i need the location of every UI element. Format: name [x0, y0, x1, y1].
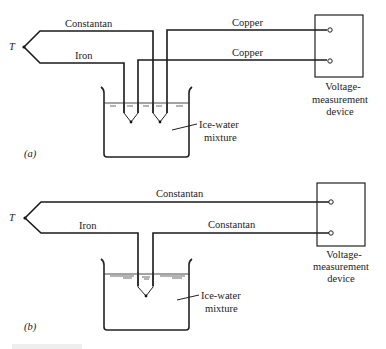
terminal-top-a	[328, 28, 332, 32]
junction-label-a: T	[9, 41, 16, 52]
voltage-device-box-a	[315, 15, 363, 77]
constantan-wire-top-b	[25, 202, 331, 218]
reference-junction-dot-right-a	[159, 121, 162, 124]
bath-leader-line-a	[172, 124, 197, 130]
panel-label-b: (b)	[24, 321, 37, 333]
wire-label-iron-b: Iron	[79, 220, 97, 231]
reference-tube-right-a	[153, 102, 167, 122]
bath-label-line2-b: mixture	[205, 303, 238, 314]
wire-label-copper-top-a: Copper	[232, 17, 263, 28]
wire-label-constantan-bottom-b: Constantan	[208, 219, 256, 230]
device-label-line3-a: device	[326, 106, 354, 117]
device-label-line2-a: measurement	[312, 94, 368, 105]
constantan-wire-a	[24, 31, 153, 113]
caption-remnant	[12, 344, 82, 349]
device-label-line2-b: measurement	[313, 261, 369, 272]
junction-label-b: T	[9, 212, 16, 223]
voltage-device-box-b	[317, 183, 365, 246]
reference-junction-dot-left-a	[130, 121, 133, 124]
reference-tube-b	[138, 272, 153, 296]
thermocouple-diagram: T Ice-water mixture Constantan Iron C	[0, 0, 386, 349]
reference-junction-dot-b	[145, 295, 148, 298]
device-label-line1-a: Voltage-	[325, 81, 361, 92]
wire-label-copper-bottom-a: Copper	[232, 47, 263, 58]
panel-label-a: (a)	[24, 148, 37, 160]
terminal-bottom-b	[329, 231, 333, 235]
terminal-top-b	[329, 200, 333, 204]
panel-a: T Ice-water mixture Constantan Iron C	[9, 15, 368, 160]
wire-label-constantan-a: Constantan	[65, 18, 113, 29]
terminal-bottom-a	[328, 59, 332, 63]
bath-label-line1-b: Ice-water	[201, 290, 241, 301]
beaker-b	[101, 259, 192, 330]
beaker-a	[101, 87, 192, 157]
reference-tube-left-a	[124, 102, 138, 122]
device-label-line3-b: device	[327, 273, 355, 284]
bath-leader-line-b	[177, 295, 199, 300]
wire-label-constantan-top-b: Constantan	[156, 188, 204, 199]
copper-wire-top-a	[167, 30, 327, 113]
bath-label-line1-a: Ice-water	[199, 119, 239, 130]
device-label-line1-b: Voltage-	[326, 249, 362, 260]
water-ripples-b	[110, 276, 185, 279]
wire-label-iron-a: Iron	[75, 50, 93, 61]
panel-b: T Ice-water mixture Constantan Iron Cons…	[9, 183, 369, 333]
bath-label-line2-a: mixture	[204, 132, 237, 143]
